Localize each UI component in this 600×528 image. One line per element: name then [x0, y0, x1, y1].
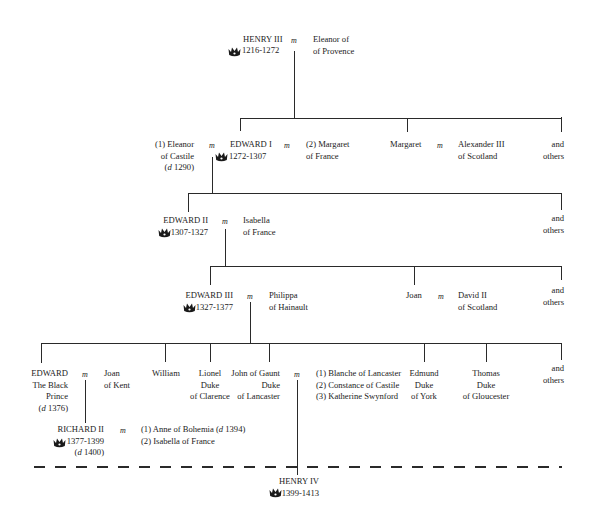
drop-others-gen4 [561, 266, 562, 280]
thomas-duke-of-gloucester: Thomas Duke of Gloucester [461, 368, 511, 403]
marriage-symbol: m [209, 140, 215, 151]
drop-others-gen3 [561, 193, 562, 210]
joan: Joan [406, 290, 422, 302]
edward3-name: EDWARD III [170, 290, 233, 302]
edward-the-black-prince: EDWARD The Black Prince (d 1376) [20, 368, 68, 414]
john-of-gaunt-spouses: (1) Blanche of Lancaster (2) Constance o… [316, 368, 401, 403]
richard2-spouses: (1) Anne of Bohemia (d 1394) (2) Isabell… [141, 424, 245, 447]
edmund-duke-of-york: Edmund Duke of York [406, 368, 442, 403]
marriage-symbol: m [291, 35, 297, 46]
marriage-line-black-prince [85, 380, 86, 423]
edward3-reign: 1327-1377 [170, 302, 233, 314]
isabella-of-france: Isabella of France [243, 215, 276, 238]
drop-others-gen5 [561, 343, 562, 360]
drop-black-prince [41, 343, 42, 363]
lionel-duke-of-clarence: Lionel Duke of Clarence [186, 368, 234, 403]
crown-icon [53, 437, 66, 448]
margaret-of-france: (2) Margaret of France [306, 139, 350, 162]
drop-lionel [210, 343, 211, 362]
eleanor-of-provence: Eleanor of of Provence [313, 34, 354, 57]
marriage-symbol: m [120, 425, 126, 436]
succession-divider [34, 466, 562, 468]
marriage-symbol: m [222, 216, 228, 227]
drop-edward3 [210, 266, 211, 285]
henry3-reign: 1216-1272 [242, 45, 279, 57]
crown-icon [215, 151, 228, 162]
edward1-reign: 1272-1307 [229, 151, 266, 163]
marriage-symbol: m [284, 140, 290, 151]
marriage-line-edward3 [250, 302, 251, 344]
john-of-gaunt-duke-of-lancaster: John of Gaunt Duke of Lancaster [228, 368, 280, 403]
children-bar-gen4 [210, 266, 562, 267]
eleanor-of-castile: (1) Eleanor [150, 139, 194, 151]
drop-edward2 [188, 193, 189, 212]
eleanor-of-castile-detail: of Castile (d 1290) [150, 151, 194, 174]
drop-william [165, 343, 166, 362]
drop-margaret [407, 118, 408, 132]
marriage-symbol: m [438, 291, 444, 302]
marriage-line-henry3 [294, 51, 295, 119]
marriage-symbol: m [82, 369, 88, 380]
drop-others-gen2 [561, 117, 562, 132]
drop-edward1 [240, 118, 241, 131]
drop-thomas [486, 343, 487, 362]
drop-edmund [424, 343, 425, 362]
william: William [152, 368, 180, 380]
henry4-name: HENRY IV [260, 476, 319, 488]
philippa-of-hainault: Philippa of Hainault [269, 290, 308, 313]
joan-of-kent: Joan of Kent [104, 368, 130, 391]
children-bar-gen3 [188, 193, 562, 194]
and-others-gen2: and others [530, 139, 564, 162]
richard2: RICHARD II 1377-1399 (d 1400) [40, 424, 104, 459]
and-others-gen4: and others [530, 285, 564, 308]
edward2-reign: 1307-1327 [150, 227, 208, 239]
and-others-gen3: and others [530, 213, 564, 236]
marriage-line-john-of-gaunt [297, 380, 298, 475]
alexander3-of-scotland: Alexander III of Scotland [458, 139, 505, 162]
edward2-name: EDWARD II [150, 215, 208, 227]
marriage-line-edward2 [225, 229, 226, 267]
marriage-symbol: m [294, 369, 300, 380]
children-bar-gen5 [41, 343, 562, 344]
and-others-gen5: and others [530, 363, 564, 386]
henry4-reign: 1399-1413 [260, 488, 319, 500]
marriage-symbol: m [247, 291, 253, 302]
edward1-name: EDWARD I [230, 139, 272, 151]
margaret: Margaret [390, 139, 421, 151]
drop-john-of-gaunt [269, 343, 270, 362]
children-bar-gen2 [240, 118, 562, 119]
david2-of-scotland: David II of Scotland [458, 290, 497, 313]
drop-joan [414, 266, 415, 285]
marriage-line-edward1 [212, 157, 213, 194]
marriage-symbol: m [437, 140, 443, 151]
crown-icon [228, 46, 241, 57]
henry3-name: HENRY III [243, 34, 283, 46]
